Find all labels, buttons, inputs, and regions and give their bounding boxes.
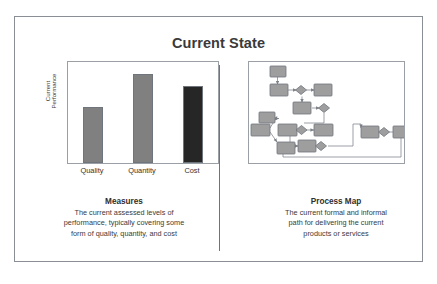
measures-caption: Measures The current assessed levels of … bbox=[31, 197, 217, 239]
process-map-panel: Process Map The current formal and infor… bbox=[243, 61, 429, 257]
measures-caption-line-2: performance, typically covering some bbox=[39, 218, 209, 228]
process-map-caption-body: The current formal and informal path for… bbox=[243, 208, 429, 239]
process-node bbox=[278, 124, 297, 136]
process-map-caption-title: Process Map bbox=[243, 197, 429, 206]
x-label-cost: Cost bbox=[167, 166, 217, 175]
process-map-caption-line-1: The current formal and informal bbox=[251, 208, 421, 218]
process-node bbox=[277, 142, 295, 154]
process-node bbox=[270, 66, 286, 77]
measures-caption-line-3: form of quality, quantity, and cost bbox=[39, 229, 209, 239]
process-node bbox=[361, 126, 379, 138]
x-label-quality: Quality bbox=[67, 166, 117, 175]
process-node bbox=[314, 84, 332, 96]
bar-cost bbox=[183, 86, 203, 163]
slide-frame: Current State Current Performance Qualit… bbox=[14, 16, 423, 262]
measures-caption-body: The current assessed levels of performan… bbox=[31, 208, 217, 239]
process-map-caption-line-2: path for delivering the current bbox=[251, 218, 421, 228]
decision-node bbox=[296, 86, 307, 95]
process-map-diagram bbox=[248, 61, 405, 164]
decision-node bbox=[319, 104, 330, 113]
decision-node bbox=[379, 128, 390, 137]
chart-x-axis-labels: Quality Quantity Cost bbox=[67, 166, 219, 180]
y-axis-line-2: Performance bbox=[51, 74, 57, 109]
process-map-caption: Process Map The current formal and infor… bbox=[243, 197, 429, 239]
process-node bbox=[393, 126, 404, 138]
process-node bbox=[314, 124, 333, 136]
panel-divider bbox=[219, 65, 220, 251]
decision-node bbox=[296, 126, 307, 135]
process-node bbox=[259, 112, 275, 123]
process-node bbox=[293, 102, 311, 114]
page-title: Current State bbox=[15, 35, 422, 51]
process-node bbox=[298, 140, 316, 152]
bar-quality bbox=[83, 107, 103, 163]
chart-y-axis-label: Current Performance bbox=[39, 58, 63, 124]
process-map-svg bbox=[249, 62, 404, 163]
process-node bbox=[270, 84, 288, 96]
process-node bbox=[251, 124, 270, 136]
decision-node bbox=[316, 142, 327, 151]
x-label-quantity: Quantity bbox=[117, 166, 167, 175]
measures-caption-title: Measures bbox=[31, 197, 217, 206]
measures-caption-line-1: The current assessed levels of bbox=[39, 208, 209, 218]
slide-canvas: Current State Current Performance Qualit… bbox=[0, 0, 437, 284]
bar-chart-plot-area bbox=[67, 61, 219, 164]
bar-quantity bbox=[133, 74, 153, 163]
measures-panel: Current Performance Quality Quantity Cos… bbox=[31, 61, 217, 257]
process-map-caption-line-3: products or services bbox=[251, 229, 421, 239]
